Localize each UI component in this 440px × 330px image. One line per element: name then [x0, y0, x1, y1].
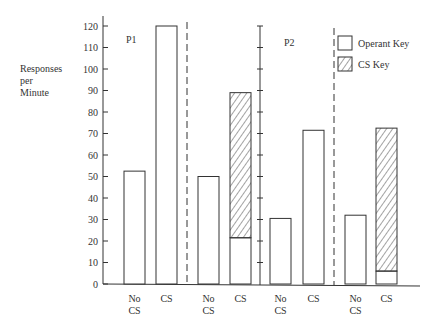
y-tick-label: 70 [88, 128, 98, 139]
legend-swatch-operant [338, 36, 352, 50]
bar-group [156, 26, 177, 284]
x-axis [103, 284, 420, 286]
x-tick-label: CS [234, 293, 246, 304]
legend-label-operant: Operant Key [358, 38, 409, 49]
panel-label-p2: P2 [284, 37, 295, 48]
legend-label-cs: CS Key [358, 59, 389, 70]
y-tick-label: 80 [88, 107, 98, 118]
y-tick-label: 120 [83, 21, 98, 32]
x-tick-label: CS [307, 293, 319, 304]
bar-group [303, 130, 324, 284]
y-tick-label: 50 [88, 171, 98, 182]
y-axis: 0102030405060708090100110120 [83, 16, 108, 290]
bar-operant-key [270, 218, 291, 284]
legend-swatch-cs [338, 57, 352, 71]
bar-operant-key [345, 215, 366, 284]
y-tick-label: 90 [88, 85, 98, 96]
y-axis-label: Responses per Minute [20, 63, 62, 98]
y-axis-label-line2: per [20, 75, 33, 86]
bar-operant-key [376, 271, 397, 284]
x-tick-label: CS [349, 305, 361, 316]
x-tick-labels: NoCSCSNoCSCSNoCSCSNoCSCS [128, 293, 392, 316]
x-tick-label: CS [160, 293, 172, 304]
x-tick-label: No [274, 293, 286, 304]
y-tick-label: 100 [83, 64, 98, 75]
y-axis-label-line1: Responses [20, 63, 62, 74]
x-tick-label: No [128, 293, 140, 304]
x-tick-label: CS [274, 305, 286, 316]
y-tick-label: 110 [83, 42, 98, 53]
y-tick-label: 0 [93, 279, 98, 290]
y-tick-label: 10 [88, 257, 98, 268]
x-tick-label: CS [202, 305, 214, 316]
panel-label-p1: P1 [126, 34, 137, 45]
y-tick-label: 60 [88, 150, 98, 161]
bar-group [376, 128, 397, 284]
legend: Operant Key CS Key [338, 36, 409, 71]
bar-chart: Responses per Minute 0102030405060708090… [0, 0, 440, 330]
y-tick-label: 40 [88, 193, 98, 204]
bar-group [345, 215, 366, 284]
bar-operant-key [303, 130, 324, 284]
y-axis-secondary [257, 26, 263, 285]
bar-cs-key [230, 93, 251, 238]
x-tick-label: No [349, 293, 361, 304]
bar-group [124, 171, 145, 284]
bar-cs-key [376, 128, 397, 271]
bar-group [270, 218, 291, 284]
bar-operant-key [230, 238, 251, 284]
bar-operant-key [124, 171, 145, 284]
bar-operant-key [156, 26, 177, 284]
y-tick-label: 30 [88, 214, 98, 225]
bar-group [230, 93, 251, 284]
x-tick-label: CS [128, 305, 140, 316]
bar-operant-key [198, 177, 219, 285]
y-tick-label: 20 [88, 236, 98, 247]
x-tick-label: No [202, 293, 214, 304]
x-tick-label: CS [380, 293, 392, 304]
y-axis-label-line3: Minute [20, 87, 49, 98]
bar-group [198, 177, 219, 285]
